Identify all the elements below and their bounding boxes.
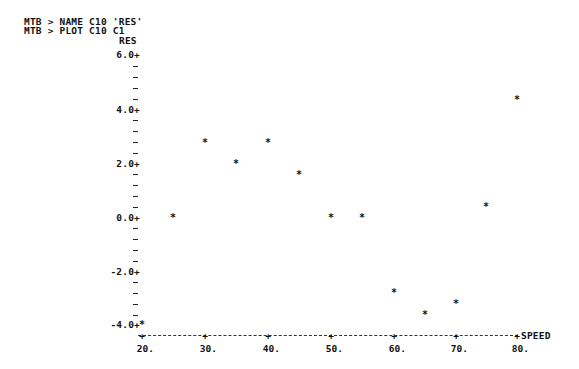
x-axis-label: SPEED [521,331,551,341]
x-tick-mark: + [391,331,397,341]
y-axis-label: RES [119,36,137,46]
x-tick-label: 50. [326,344,343,354]
y-tick-label: 4.0+ [70,105,140,115]
data-point: * [453,299,459,309]
data-point: * [202,138,208,148]
command-line-plot: MTB > PLOT C10 C1 [24,26,125,36]
data-point: * [359,213,365,223]
x-tick-mark: + [328,331,334,341]
y-tick-label: 0.0+ [70,213,140,223]
x-tick-mark: + [265,331,271,341]
data-point: * [296,170,302,180]
data-point: * [170,213,176,223]
x-tick-mark: + [453,331,459,341]
x-tick-mark: + [139,331,145,341]
y-tick-label: 2.0+ [70,159,140,169]
x-tick-label: 30. [200,344,217,354]
data-point: * [139,320,145,330]
data-point: * [265,138,271,148]
data-point: * [483,202,489,212]
y-tick-label: 6.0+ [70,50,140,60]
x-tick-label: 40. [263,344,280,354]
y-tick-label: -4.0+ [70,320,140,330]
x-tick-label: 20. [137,344,154,354]
x-tick-label: 70. [451,344,468,354]
x-tick-mark: + [202,331,208,341]
data-point: * [233,159,239,169]
data-point: * [328,213,334,223]
x-tick-label: 80. [512,344,529,354]
x-tick-mark: + [514,331,520,341]
x-tick-label: 60. [389,344,406,354]
data-point: * [391,288,397,298]
data-point: * [514,95,520,105]
y-tick-label: -2.0+ [70,267,140,277]
data-point: * [422,310,428,320]
